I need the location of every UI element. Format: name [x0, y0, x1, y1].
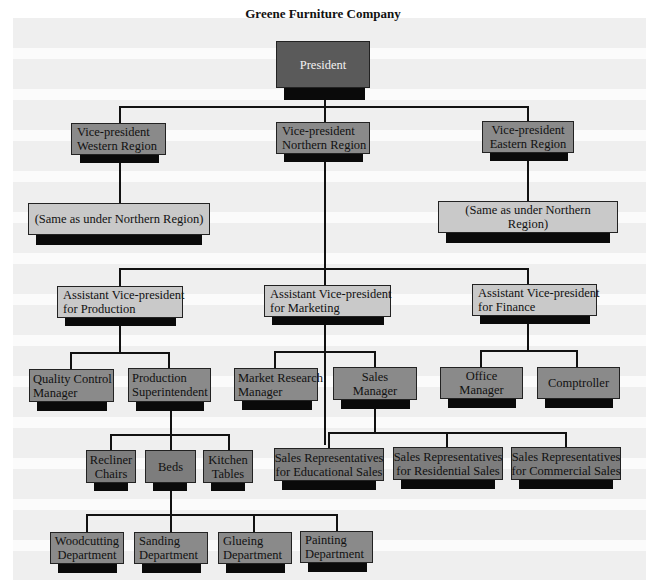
recliner-chairs-box: Recliner Chairs — [86, 450, 136, 483]
sales-rep-educational-box: Sales Representatives for Educational Sa… — [274, 448, 384, 481]
production-superintendent-box: Production Superintendent — [128, 368, 211, 402]
connector — [170, 490, 172, 532]
connector — [480, 350, 578, 352]
quality-control-box: Quality Control Manager — [29, 369, 114, 402]
painting-department-box: Painting Department — [300, 531, 373, 563]
comptroller-box: Comptroller — [537, 367, 620, 399]
connector — [253, 514, 255, 532]
woodcutting-department-box: Woodcutting Department — [50, 532, 124, 564]
vp-northern-box: Vice-president Northern Region — [276, 122, 370, 154]
connector — [110, 434, 230, 436]
connector — [119, 268, 121, 286]
connector — [170, 410, 172, 450]
connector — [328, 432, 330, 448]
connector — [274, 351, 276, 368]
sanding-department-box: Sanding Department — [134, 532, 208, 564]
sales-rep-residential-box: Sales Representatives for Residential Sa… — [393, 447, 503, 480]
avp-finance-box: Assistant Vice-president for Finance — [472, 284, 597, 316]
connector — [480, 350, 482, 367]
connector — [119, 106, 529, 108]
connector — [86, 514, 88, 532]
box-shadow — [284, 86, 365, 100]
same-as-northern-west-box: (Same as under Northern Region) — [28, 203, 210, 235]
connector — [168, 352, 170, 368]
connector — [70, 352, 170, 354]
connector — [274, 351, 376, 353]
connector — [119, 163, 121, 203]
connector — [119, 268, 529, 270]
connector — [527, 161, 529, 201]
kitchen-tables-box: Kitchen Tables — [203, 450, 253, 483]
connector — [119, 326, 121, 353]
connector — [374, 408, 376, 434]
connector — [70, 352, 72, 369]
connector — [228, 434, 230, 450]
avp-marketing-box: Assistant Vice-president for Marketing — [264, 285, 391, 317]
connector — [446, 432, 448, 448]
connector — [565, 432, 567, 448]
connector — [527, 324, 529, 352]
connector — [527, 106, 529, 121]
sales-manager-box: Sales Manager — [333, 367, 417, 400]
office-manager-box: Office Manager — [440, 367, 523, 399]
market-research-box: Market Research Manager — [234, 368, 318, 401]
connector — [576, 350, 578, 367]
connector — [119, 106, 121, 123]
sales-rep-commercial-box: Sales Representatives for Commercial Sal… — [511, 447, 621, 480]
president-box: President — [276, 41, 370, 88]
same-as-northern-east-box: (Same as under Northern Region) — [438, 201, 618, 233]
vp-eastern-box: Vice-president Eastern Region — [482, 121, 574, 153]
glueing-department-box: Glueing Department — [218, 532, 292, 564]
connector — [336, 514, 338, 531]
vp-western-box: Vice-president Western Region — [71, 123, 166, 155]
connector — [527, 268, 529, 284]
chart-title: Greene Furniture Company — [0, 6, 646, 22]
avp-production-box: Assistant Vice-president for Production — [57, 286, 183, 318]
connector — [374, 351, 376, 367]
beds-box: Beds — [145, 450, 196, 483]
connector — [110, 434, 112, 450]
connector — [86, 514, 338, 516]
